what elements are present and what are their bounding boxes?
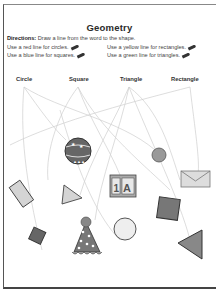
open-circle-shape [114,218,136,240]
svg-text:▲▲▲: ▲▲▲ [73,159,85,164]
worksheet-page: Geometry Directions: Draw a line from th… [0,0,219,297]
svg-text:A: A [123,182,131,194]
red-dot-shape [152,148,166,162]
ball-shape: ★ ★ ▲▲▲ [65,138,91,164]
dark-square-small-shape [29,227,46,244]
svg-text:1: 1 [114,183,120,194]
connecting-lines [10,87,198,250]
large-triangle-shape [178,230,202,259]
small-triangle-shape [62,185,82,204]
letter-block-shape: 1 A [110,175,136,197]
dark-square-large-shape [157,197,181,221]
shapes-canvas: ★ ★ ▲▲▲ 1 A [0,0,219,297]
envelope-shape [181,171,210,187]
party-hat-shape [72,217,102,254]
